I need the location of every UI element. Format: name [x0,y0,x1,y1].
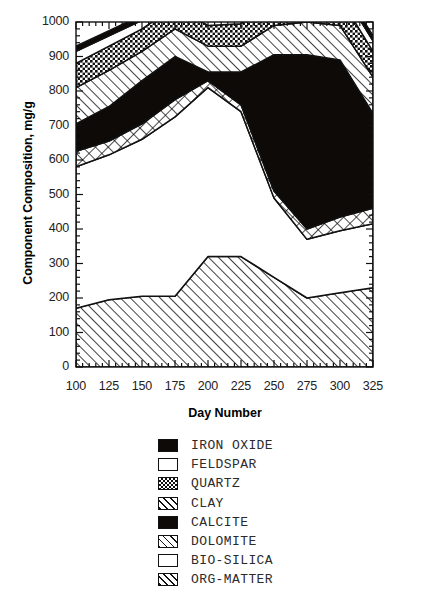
legend-item: CALCITE [158,513,398,532]
y-tick-label: 500 [23,187,69,201]
legend-label: FELDSPAR [191,457,257,472]
y-tick-label: 100 [23,325,69,339]
legend-label: BIO-SILICA [191,553,273,568]
legend-item: BIO-SILICA [158,551,398,570]
area-series-group [76,0,373,367]
chart-legend: IRON OXIDEFELDSPARQUARTZCLAYCALCITEDOLOM… [158,436,398,590]
y-tick-label: 700 [23,118,69,132]
legend-swatch-dolomite-icon [158,535,178,548]
legend-label: DOLOMITE [191,534,257,549]
legend-item: DOLOMITE [158,532,398,551]
legend-item: CLAY [158,494,398,513]
legend-swatch-iron-oxide-icon [158,439,178,452]
legend-item: QUARTZ [158,474,398,493]
y-tick-label: 900 [23,49,69,63]
x-tick-label: 325 [353,379,393,393]
legend-swatch-feldspar-icon [158,458,178,471]
legend-item: ORG-MATTER [158,570,398,589]
legend-swatch-calcite-icon [158,516,178,529]
y-tick-label: 600 [23,152,69,166]
legend-swatch-org-matter-icon [158,573,178,586]
legend-label: ORG-MATTER [191,572,273,587]
legend-item: FELDSPAR [158,455,398,474]
y-tick-label: 200 [23,290,69,304]
y-tick-label: 400 [23,221,69,235]
x-axis-label: Day Number [76,406,374,420]
legend-item: IRON OXIDE [158,436,398,455]
stacked-area-chart: Component Composition, mg/g Day Number 0… [0,0,437,430]
legend-label: QUARTZ [191,476,240,491]
chart-page: Component Composition, mg/g Day Number 0… [0,0,437,599]
legend-label: CLAY [191,496,224,511]
legend-swatch-bio-silica-icon [158,554,178,567]
legend-swatch-quartz-icon [158,477,178,490]
legend-label: IRON OXIDE [191,438,273,453]
y-tick-label: 1000 [23,14,69,28]
legend-swatch-clay-icon [158,497,178,510]
y-tick-label: 800 [23,83,69,97]
y-tick-label: 300 [23,256,69,270]
y-tick-label: 0 [23,359,69,373]
legend-label: CALCITE [191,515,248,530]
